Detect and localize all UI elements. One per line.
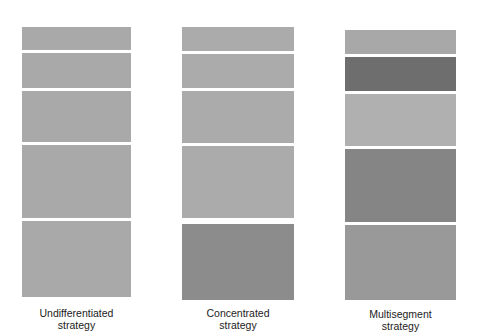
- strategy-column: Multisegmentstrategy: [345, 0, 456, 333]
- market-segment-block: [22, 91, 131, 142]
- market-segment-block: [345, 94, 456, 146]
- market-segment-block: [345, 57, 456, 91]
- market-segment-block: [182, 54, 294, 88]
- strategy-label: Undifferentiatedstrategy: [2, 307, 151, 331]
- strategy-label-line2: strategy: [325, 320, 476, 332]
- strategy-label-line2: strategy: [2, 319, 151, 331]
- strategy-label-line1: Concentrated: [162, 307, 314, 319]
- market-segment-block: [182, 91, 294, 143]
- strategy-label-line2: strategy: [162, 319, 314, 331]
- market-segment-block: [22, 145, 131, 218]
- market-segment-block: [182, 146, 294, 218]
- market-segment-block: [345, 149, 456, 222]
- market-segment-block: [345, 30, 456, 54]
- strategy-label: Multisegmentstrategy: [325, 308, 476, 332]
- strategy-column: Undifferentiatedstrategy: [22, 0, 131, 333]
- market-segment-block: [345, 225, 456, 300]
- market-segment-block: [182, 27, 294, 51]
- market-segment-block: [182, 224, 294, 300]
- market-segment-block: [22, 221, 131, 297]
- strategy-label-line1: Multisegment: [325, 308, 476, 320]
- strategy-label-line1: Undifferentiated: [2, 307, 151, 319]
- market-segment-block: [22, 27, 131, 50]
- strategy-column: Concentratedstrategy: [182, 0, 294, 333]
- market-segment-block: [22, 53, 131, 88]
- strategy-label: Concentratedstrategy: [162, 307, 314, 331]
